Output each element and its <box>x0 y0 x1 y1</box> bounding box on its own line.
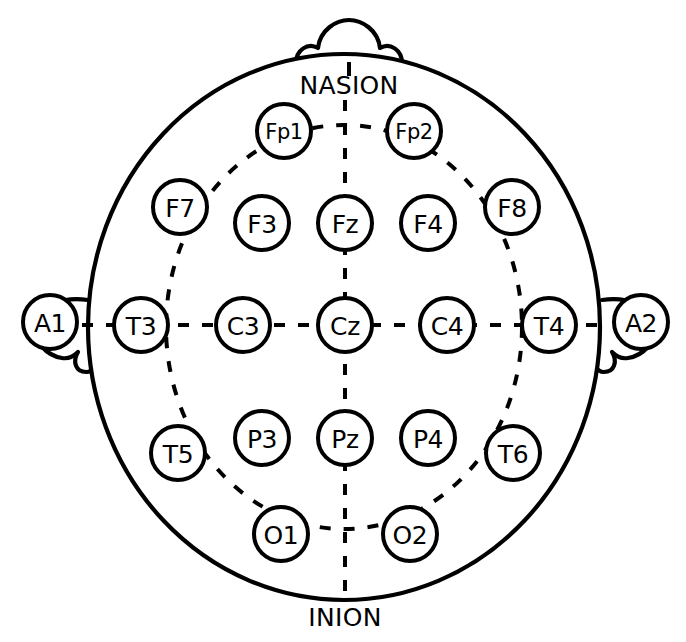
landmark-label-inion: INION <box>308 603 381 632</box>
electrode-label-T6: T6 <box>497 440 528 469</box>
electrode-T5[interactable]: T5 <box>151 426 205 480</box>
electrode-Fz[interactable]: Fz <box>318 196 372 250</box>
electrode-label-O1: O1 <box>264 521 299 550</box>
eeg-diagram-canvas: NASION INION Fp1 Fp2 F7 F3 Fz <box>0 0 686 642</box>
electrode-A2[interactable]: A2 <box>614 295 668 349</box>
electrode-label-F4: F4 <box>413 210 443 239</box>
electrode-Cz[interactable]: Cz <box>318 298 372 352</box>
electrode-label-Cz: Cz <box>330 312 360 341</box>
electrode-P4[interactable]: P4 <box>401 411 455 465</box>
electrode-label-T3: T3 <box>125 312 156 341</box>
electrode-label-C3: C3 <box>227 312 260 341</box>
electrode-Fp1[interactable]: Fp1 <box>257 104 311 158</box>
landmark-label-nasion: NASION <box>299 71 398 100</box>
electrode-label-Fz: Fz <box>332 210 359 239</box>
electrode-label-T4: T4 <box>533 312 564 341</box>
eeg-electrode-diagram: NASION INION Fp1 Fp2 F7 F3 Fz <box>0 0 686 642</box>
electrode-label-F7: F7 <box>165 194 195 223</box>
electrode-label-A1: A1 <box>34 309 66 338</box>
electrode-label-Fp1: Fp1 <box>265 120 303 144</box>
electrode-Pz[interactable]: Pz <box>318 411 372 465</box>
electrode-Fp2[interactable]: Fp2 <box>387 104 441 158</box>
electrode-A1[interactable]: A1 <box>23 295 77 349</box>
electrode-label-P4: P4 <box>413 425 443 454</box>
electrode-T3[interactable]: T3 <box>114 298 168 352</box>
electrode-F3[interactable]: F3 <box>235 196 289 250</box>
electrode-label-Pz: Pz <box>331 425 359 454</box>
electrode-T6[interactable]: T6 <box>486 426 540 480</box>
electrode-O1[interactable]: O1 <box>254 507 308 561</box>
electrode-O2[interactable]: O2 <box>383 507 437 561</box>
electrode-F4[interactable]: F4 <box>401 196 455 250</box>
electrode-C3[interactable]: C3 <box>216 298 270 352</box>
electrode-C4[interactable]: C4 <box>420 298 474 352</box>
electrode-F8[interactable]: F8 <box>485 180 539 234</box>
electrode-label-C4: C4 <box>431 312 464 341</box>
electrode-T4[interactable]: T4 <box>522 298 576 352</box>
electrode-label-P3: P3 <box>247 425 277 454</box>
electrode-F7[interactable]: F7 <box>153 180 207 234</box>
electrode-P3[interactable]: P3 <box>235 411 289 465</box>
electrode-label-T5: T5 <box>162 440 193 469</box>
electrode-label-F8: F8 <box>497 194 527 223</box>
electrode-label-Fp2: Fp2 <box>395 120 433 144</box>
electrode-label-O2: O2 <box>393 521 428 550</box>
electrode-label-F3: F3 <box>247 210 277 239</box>
electrode-label-A2: A2 <box>625 309 657 338</box>
